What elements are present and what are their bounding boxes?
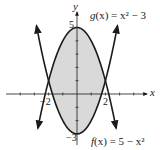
g-function-label: g(x) = x² − 3 — [90, 10, 146, 21]
f-function-label: f(x) = 5 − x² — [91, 136, 145, 147]
tick-label-x-2: 2 — [103, 97, 108, 107]
tick-label-x-neg2: −2 — [40, 97, 51, 107]
curve-f-right-arrow — [108, 92, 116, 128]
y-axis-label: y — [73, 1, 78, 12]
x-axis-label: x — [150, 87, 155, 98]
f-function-expr: (x) = 5 − x² — [94, 135, 145, 147]
tick-label-y-5: 5 — [69, 20, 74, 30]
tick-label-y-neg3: −3 — [66, 133, 77, 143]
g-function-expr: (x) = x² − 3 — [96, 9, 147, 21]
plot-area — [0, 0, 160, 150]
